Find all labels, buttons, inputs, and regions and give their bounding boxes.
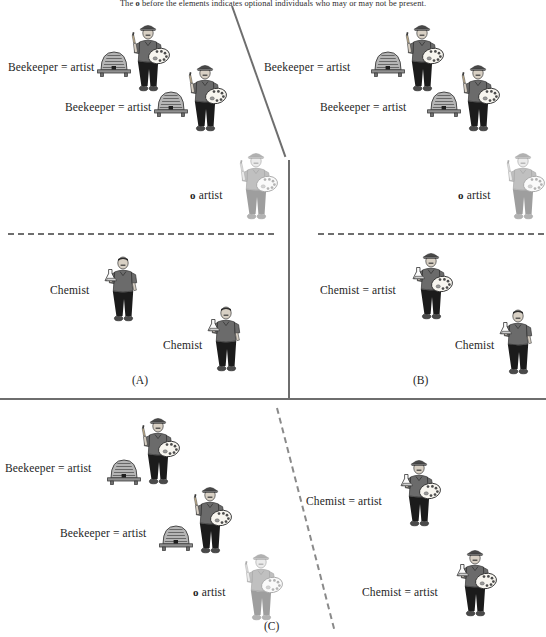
figure-caption: The o before the elements indicates opti… xyxy=(0,0,546,8)
label-beekeeper-artist: Beekeeper = artist xyxy=(8,61,94,73)
divider-horizontal-main xyxy=(0,398,546,400)
label-beekeeper-artist: Beekeeper = artist xyxy=(60,527,146,539)
label-chemist: Chemist xyxy=(455,339,494,351)
figure-artist xyxy=(135,413,181,491)
label-chemist-artist: Chemist = artist xyxy=(320,284,396,296)
figure-artist-optional xyxy=(233,148,279,226)
figure-artist xyxy=(125,20,171,98)
label-chemist-artist: Chemist = artist xyxy=(362,586,438,598)
figure-artist xyxy=(399,20,445,98)
label-beekeeper-artist: Beekeeper = artist xyxy=(65,101,151,113)
figure-artist xyxy=(455,60,501,138)
label-optional-artist: o artist xyxy=(458,189,491,201)
figure-chemist xyxy=(495,303,541,381)
label-optional-artist: o artist xyxy=(193,586,226,598)
label-chemist: Chemist xyxy=(163,339,202,351)
label-beekeeper-artist: Beekeeper = artist xyxy=(320,101,406,113)
panel-label-c: (C) xyxy=(264,620,279,632)
divider-dashed-panel-b xyxy=(318,233,544,235)
figure-artist xyxy=(187,482,233,560)
caption-prefix: The xyxy=(120,0,136,8)
figure-chemist xyxy=(100,250,146,328)
divider-slanted-a-b xyxy=(231,6,286,157)
figure-chemist-artist xyxy=(452,545,498,623)
figure-chemist-artist xyxy=(408,248,454,326)
figure-artist-optional xyxy=(238,549,284,627)
label-optional-artist: o artist xyxy=(190,189,223,201)
figure-chemist-artist xyxy=(396,455,442,533)
divider-vertical-a-b xyxy=(288,160,290,399)
divider-dashed-panel-c xyxy=(276,408,335,629)
figure-artist xyxy=(182,60,228,138)
label-chemist-artist: Chemist = artist xyxy=(306,495,382,507)
panel-label-a: (A) xyxy=(132,374,148,386)
divider-dashed-panel-a xyxy=(8,233,274,235)
figure-chemist xyxy=(203,300,249,378)
figure-artist-optional xyxy=(500,148,546,226)
caption-suffix: before the elements indicates optional i… xyxy=(140,0,426,8)
label-beekeeper-artist: Beekeeper = artist xyxy=(5,462,91,474)
panel-label-b: (B) xyxy=(413,374,428,386)
label-chemist: Chemist xyxy=(50,284,89,296)
label-beekeeper-artist: Beekeeper = artist xyxy=(264,61,350,73)
